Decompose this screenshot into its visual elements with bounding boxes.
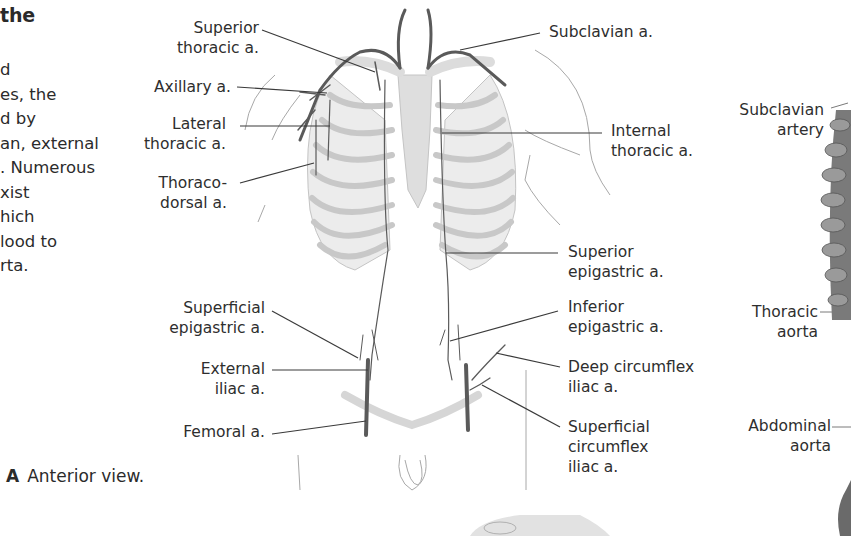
label-thoracodorsal-artery: Thoraco- dorsal a. [158, 173, 227, 213]
label-lateral-thoracic-artery: Lateral thoracic a. [144, 114, 226, 154]
label-superficial-circumflex-iliac-artery: Superficial circumflex iliac a. [568, 417, 650, 477]
rib-cage [308, 61, 516, 270]
label-superficial-epigastric-artery: Superficial epigastric a. [169, 298, 265, 338]
label-femoral-artery: Femoral a. [183, 422, 265, 442]
caption-text: Anterior view. [27, 466, 144, 486]
label-inferior-epigastric-artery: Inferior epigastric a. [568, 297, 664, 337]
label-abdominal-aorta: Abdominal aorta [748, 416, 831, 456]
label-superior-thoracic-artery: Superior thoracic a. [177, 18, 259, 58]
figure-caption: AAnterior view. [6, 466, 144, 486]
label-thoracic-aorta: Thoracic aorta [752, 302, 818, 342]
label-subclavian-artery: Subclavian a. [549, 22, 653, 42]
label-internal-thoracic-artery: Internal thoracic a. [611, 121, 693, 161]
lower-partial-illustration [470, 515, 610, 536]
label-external-iliac-artery: External iliac a. [201, 359, 265, 399]
anatomy-illustration [0, 0, 851, 536]
label-subclavian-artery-b: Subclavian artery [739, 100, 824, 140]
label-deep-circumflex-iliac-artery: Deep circumflex iliac a. [568, 357, 694, 397]
label-axillary-artery: Axillary a. [154, 77, 231, 97]
caption-letter: A [6, 466, 19, 486]
label-superior-epigastric-artery: Superior epigastric a. [568, 242, 664, 282]
spine-lateral-view [820, 103, 851, 536]
